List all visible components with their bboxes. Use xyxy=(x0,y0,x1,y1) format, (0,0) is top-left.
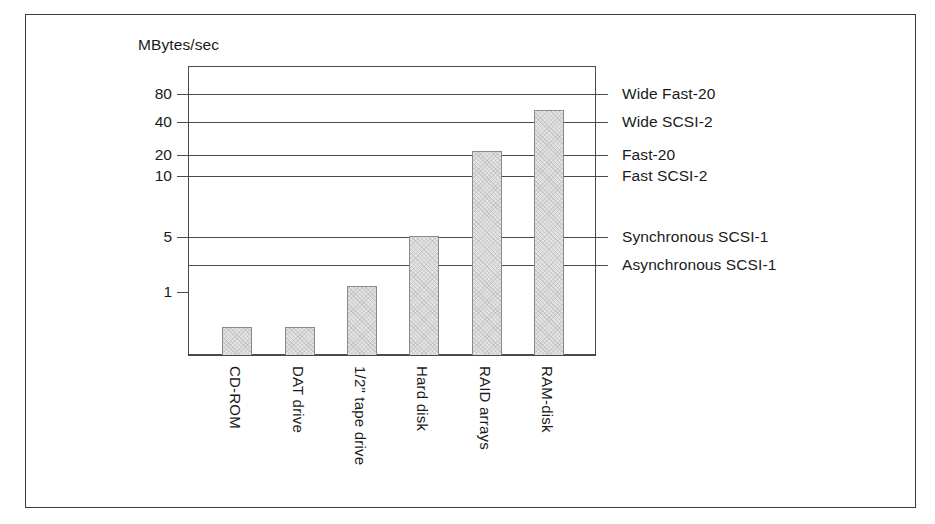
bar-ram-disk[interactable] xyxy=(534,110,564,356)
annotation-synchronous-scsi-1: Synchronous SCSI-1 xyxy=(622,228,769,246)
bar-hard-disk[interactable] xyxy=(409,236,439,356)
tick-40 xyxy=(177,122,188,123)
category-label-dat-drive: DAT drive xyxy=(290,366,307,433)
ytick-text-80: 80 xyxy=(155,85,172,103)
y-axis-title: MBytes/sec xyxy=(138,36,219,54)
annotation-wide-scsi-2: Wide SCSI-2 xyxy=(622,113,713,131)
tick-1 xyxy=(177,292,188,293)
gridline-80 xyxy=(188,94,608,95)
tick-5 xyxy=(177,237,188,238)
ytick-text-1: 1 xyxy=(163,283,172,301)
annotation-fast-20: Fast-20 xyxy=(622,146,675,164)
category-label-hard-disk: Hard disk xyxy=(414,366,431,431)
category-label-ram-disk: RAM-disk xyxy=(539,366,556,433)
ytick-text-20: 20 xyxy=(155,146,172,164)
ytick-text-10: 10 xyxy=(155,167,172,185)
ytick-text-40: 40 xyxy=(155,113,172,131)
bar-chart: MBytes/sec 80 40 20 10 5 1 CD-ROM DAT dr… xyxy=(0,0,935,524)
annotation-asynchronous-scsi-1: Asynchronous SCSI-1 xyxy=(622,256,776,274)
x-axis-baseline xyxy=(188,355,596,356)
bar-raid-arrays[interactable] xyxy=(472,151,502,356)
bar-tape-drive[interactable] xyxy=(347,286,377,356)
tick-10 xyxy=(177,176,188,177)
bar-dat-drive[interactable] xyxy=(285,327,315,356)
category-label-tape-drive: 1/2" tape drive xyxy=(352,366,369,465)
tick-80 xyxy=(177,94,188,95)
ytick-text-5: 5 xyxy=(163,228,172,246)
annotation-wide-fast-20: Wide Fast-20 xyxy=(622,85,715,103)
bar-cd-rom[interactable] xyxy=(222,327,252,356)
category-label-raid-arrays: RAID arrays xyxy=(477,366,494,450)
annotation-fast-scsi-2: Fast SCSI-2 xyxy=(622,167,708,185)
tick-20 xyxy=(177,155,188,156)
category-label-cd-rom: CD-ROM xyxy=(227,366,244,429)
